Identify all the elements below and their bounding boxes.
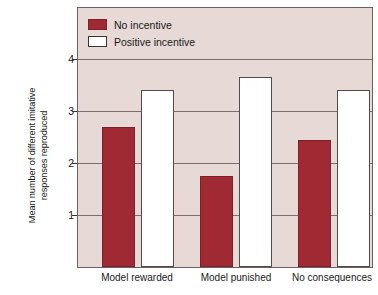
plot-area: No incentive Positive incentive (77, 7, 373, 268)
bar-no-consequences-positive-incentive (337, 90, 370, 267)
bar-chart-figure: Mean number of different imitative respo… (0, 0, 378, 295)
y-axis-title-line-1: Mean number of different imitative (28, 88, 38, 223)
legend-label-positive-incentive: Positive incentive (114, 36, 195, 48)
legend: No incentive Positive incentive (84, 14, 199, 53)
bar-model-rewarded-positive-incentive (141, 90, 174, 267)
legend-item-positive-incentive: Positive incentive (88, 33, 195, 50)
x-tick-label-no-consequences: No consequences (272, 272, 378, 284)
gridline-3 (78, 111, 372, 112)
bar-model-punished-positive-incentive (239, 77, 272, 267)
legend-item-no-incentive: No incentive (88, 16, 195, 33)
bar-model-rewarded-no-incentive (102, 127, 135, 267)
gridline-4 (78, 59, 372, 60)
legend-swatch-no-incentive (88, 19, 107, 30)
y-axis-title-line-2: responses reproduced (39, 88, 51, 223)
legend-swatch-positive-incentive (88, 36, 107, 47)
y-axis-title: Mean number of different imitative respo… (26, 48, 52, 263)
bar-model-punished-no-incentive (200, 176, 233, 267)
bar-no-consequences-no-incentive (298, 140, 331, 267)
legend-label-no-incentive: No incentive (114, 19, 172, 31)
